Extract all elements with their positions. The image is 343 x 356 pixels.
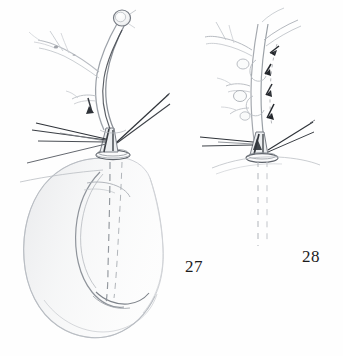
setae-fan-left	[27, 123, 106, 163]
flow-arrows	[265, 44, 279, 126]
duct-continuation-dashed	[258, 161, 267, 246]
inner-lobe	[76, 172, 149, 308]
duct-base	[100, 128, 118, 152]
flow-arrow-4	[267, 104, 274, 120]
body-contour-line-28	[212, 157, 320, 168]
main-duct-28	[246, 24, 268, 140]
junction-sheath	[100, 130, 126, 133]
figure-label-27: 27	[185, 258, 203, 275]
branch-system-left-28	[205, 22, 252, 120]
seta-pair-right	[117, 93, 170, 143]
main-duct	[96, 22, 126, 130]
body-contour-line	[20, 170, 103, 182]
plate-drawing	[0, 0, 343, 356]
collar-ring-28	[246, 153, 278, 163]
figure-plate: 27 28	[0, 0, 343, 356]
internal-duct-dashed	[106, 162, 122, 304]
branch-mid-left	[66, 91, 96, 114]
body-contour-line-28b	[216, 164, 282, 174]
flow-arrow-3	[266, 84, 272, 97]
flow-arrow-2	[265, 64, 271, 76]
seta-pair-right-28	[268, 120, 315, 152]
body-outline	[24, 157, 164, 338]
duct-base-28	[250, 132, 268, 155]
figure-27-group	[20, 10, 170, 338]
figure-label-28: 28	[302, 248, 320, 265]
branch-upper-right-28	[262, 8, 301, 46]
figure-28-group	[200, 8, 320, 246]
setae-fan-left-28	[200, 137, 253, 146]
collar-ring	[96, 149, 130, 159]
flow-arrow-1	[270, 46, 279, 56]
terminal-bulb	[114, 10, 137, 28]
branch-system-left	[29, 31, 99, 78]
